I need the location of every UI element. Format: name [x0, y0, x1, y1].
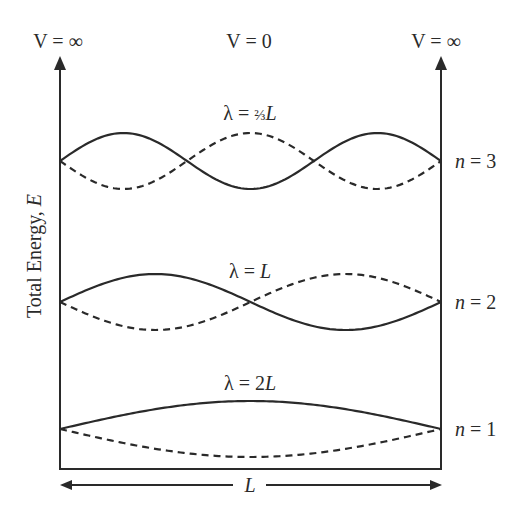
wave-n1-dashed: [60, 429, 441, 457]
wavelength-label-n2: λ = L: [229, 260, 271, 282]
infinite-well-diagram: V = ∞ V = 0 V = ∞ Total Energy, E λ = ⅔L…: [0, 0, 530, 513]
quantum-number-label-n1: n = 1: [455, 418, 496, 440]
box-width-dimension: L: [60, 474, 442, 496]
wavelength-label-n3: λ = ⅔L: [223, 102, 276, 124]
arrow-up-icon: [54, 56, 66, 70]
right-potential-label: V = ∞: [411, 30, 461, 52]
wave-n3-dashed: [60, 133, 441, 189]
standing-waves: [60, 133, 441, 457]
box-width-label: L: [243, 474, 255, 496]
right-wall-arrow: [435, 56, 447, 469]
wavelength-label-n1: λ = 2L: [224, 372, 276, 394]
left-potential-label: V = ∞: [33, 30, 83, 52]
arrow-right-icon: [430, 480, 442, 490]
wave-n1-solid: [60, 401, 441, 429]
arrow-up-icon: [435, 56, 447, 70]
left-wall-arrow: [54, 56, 66, 469]
quantum-number-label-n2: n = 2: [455, 291, 496, 313]
wave-n3-solid: [60, 133, 441, 189]
wave-n2-solid: [60, 274, 441, 330]
quantum-number-label-n3: n = 3: [455, 150, 496, 172]
y-axis-label: Total Energy, E: [23, 194, 46, 318]
center-potential-label: V = 0: [226, 30, 271, 52]
diagram-canvas: V = ∞ V = 0 V = ∞ Total Energy, E λ = ⅔L…: [0, 0, 530, 513]
arrow-left-icon: [60, 480, 72, 490]
